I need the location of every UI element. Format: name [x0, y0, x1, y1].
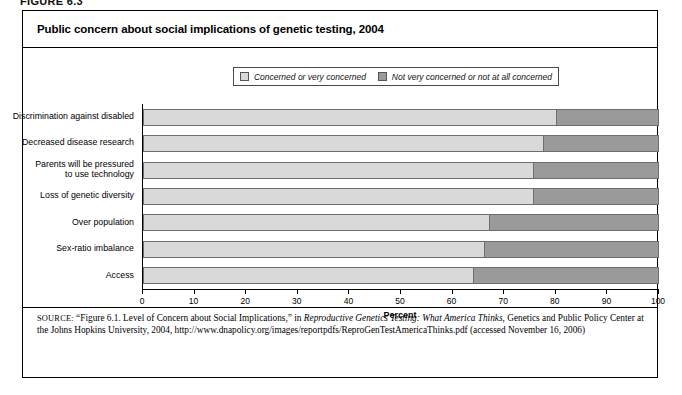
bar-segment-concerned — [143, 214, 489, 231]
bar-segment-concerned — [143, 267, 473, 284]
bar-segment-not-concerned — [543, 135, 659, 152]
x-tick-mark — [452, 289, 453, 294]
bar-segment-concerned — [143, 188, 533, 205]
x-tick-mark — [503, 289, 504, 294]
bar-row — [143, 267, 659, 284]
legend-label-concerned: Concerned or very concerned — [254, 72, 366, 82]
bar-row — [143, 241, 659, 258]
bar-row — [143, 162, 659, 179]
x-tick-mark — [245, 289, 246, 294]
x-tick-mark — [348, 289, 349, 294]
x-tick-mark — [555, 289, 556, 294]
bar-segment-concerned — [143, 135, 543, 152]
source-note: SOURCE: “Figure 6.1. Level of Concern ab… — [37, 313, 645, 336]
legend-item-not-concerned: Not very concerned or not at all concern… — [378, 72, 552, 82]
bar-segment-not-concerned — [473, 267, 659, 284]
x-tick-label: 80 — [550, 296, 559, 306]
x-tick-label: 100 — [651, 296, 665, 306]
x-tick-mark — [142, 289, 143, 294]
category-label: Over population — [0, 217, 134, 228]
bar-row — [143, 109, 659, 126]
bar-segment-not-concerned — [484, 241, 659, 258]
category-label: Access — [0, 270, 134, 281]
x-tick-label: 10 — [189, 296, 198, 306]
category-label: Decreased disease research — [0, 137, 134, 148]
category-label: Parents will be pressured to use technol… — [0, 159, 134, 180]
bar-segment-not-concerned — [533, 162, 659, 179]
x-tick-label: 50 — [395, 296, 404, 306]
category-label: Loss of genetic diversity — [0, 190, 134, 201]
bar-segment-not-concerned — [533, 188, 659, 205]
category-label: Discrimination against disabled — [0, 111, 134, 122]
x-tick-mark — [194, 289, 195, 294]
x-tick-label: 90 — [602, 296, 611, 306]
bar-segment-concerned — [143, 109, 556, 126]
bar-row — [143, 188, 659, 205]
x-tick-label: 40 — [344, 296, 353, 306]
x-tick-label: 30 — [292, 296, 301, 306]
source-text-part1: “Figure 6.1. Level of Concern about Soci… — [74, 313, 304, 323]
bar-segment-concerned — [143, 241, 484, 258]
legend-label-not-concerned: Not very concerned or not at all concern… — [392, 72, 552, 82]
x-tick-mark — [400, 289, 401, 294]
bar-segment-not-concerned — [556, 109, 659, 126]
x-tick-mark — [606, 289, 607, 294]
source-italic-title: Reproductive Genetics Testing: What Amer… — [304, 313, 505, 323]
x-tick-mark — [658, 289, 659, 294]
figure-number-label: FIGURE 6.3 — [20, 0, 83, 7]
source-divider — [23, 307, 657, 308]
source-keyword: SOURCE: — [37, 314, 74, 323]
bar-row — [143, 135, 659, 152]
legend-swatch-icon-not-concerned — [378, 72, 387, 81]
plot-area: Discrimination against disabledDecreased… — [142, 104, 658, 289]
x-tick-label: 20 — [240, 296, 249, 306]
chart-legend: Concerned or very concerned Not very con… — [233, 67, 559, 86]
bar-segment-not-concerned — [489, 214, 659, 231]
figure-container: Public concern about social implications… — [22, 10, 658, 378]
x-tick-label: 60 — [447, 296, 456, 306]
category-label: Sex-ratio imbalance — [0, 243, 134, 254]
legend-swatch-icon-concerned — [240, 72, 249, 81]
chart-title: Public concern about social implications… — [37, 23, 384, 35]
title-divider — [23, 47, 657, 48]
bar-row — [143, 214, 659, 231]
x-tick-label: 70 — [498, 296, 507, 306]
x-tick-label: 0 — [140, 296, 145, 306]
bar-segment-concerned — [143, 162, 533, 179]
legend-item-concerned: Concerned or very concerned — [240, 72, 366, 82]
x-tick-mark — [297, 289, 298, 294]
